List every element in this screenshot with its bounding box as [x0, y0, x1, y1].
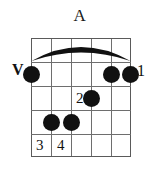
finger-number-2: 2 — [76, 91, 84, 106]
string-line-5 — [111, 38, 112, 157]
chord-name-title: A — [0, 6, 160, 26]
finger-dot-string3-fret3 — [63, 114, 80, 131]
fret-position-marker: V — [12, 62, 24, 78]
finger-dot-string2-fret3 — [43, 114, 60, 131]
fret-line-4 — [31, 134, 131, 135]
fret-line-3 — [31, 110, 131, 111]
finger-number-4: 4 — [57, 138, 65, 153]
finger-number-3: 3 — [36, 138, 44, 153]
fret-line-2 — [31, 86, 131, 87]
string-line-3 — [71, 38, 72, 157]
string-line-2 — [51, 38, 52, 157]
fret-line-1 — [31, 62, 131, 63]
finger-dot-string6-fret1 — [122, 66, 139, 83]
finger-dot-string1-fret1 — [23, 66, 40, 83]
fret-line-0 — [31, 38, 131, 39]
string-line-1 — [31, 38, 32, 157]
barre-finger-label: 1 — [137, 63, 145, 79]
finger-dot-string5-fret1 — [103, 66, 120, 83]
guitar-chord-diagram: A 2 3 4 V 1 — [0, 0, 160, 173]
fret-line-5 — [31, 156, 131, 157]
fretboard-grid: 2 3 4 — [31, 38, 131, 157]
string-line-6 — [130, 38, 131, 157]
finger-dot-string4-fret2 — [83, 90, 100, 107]
